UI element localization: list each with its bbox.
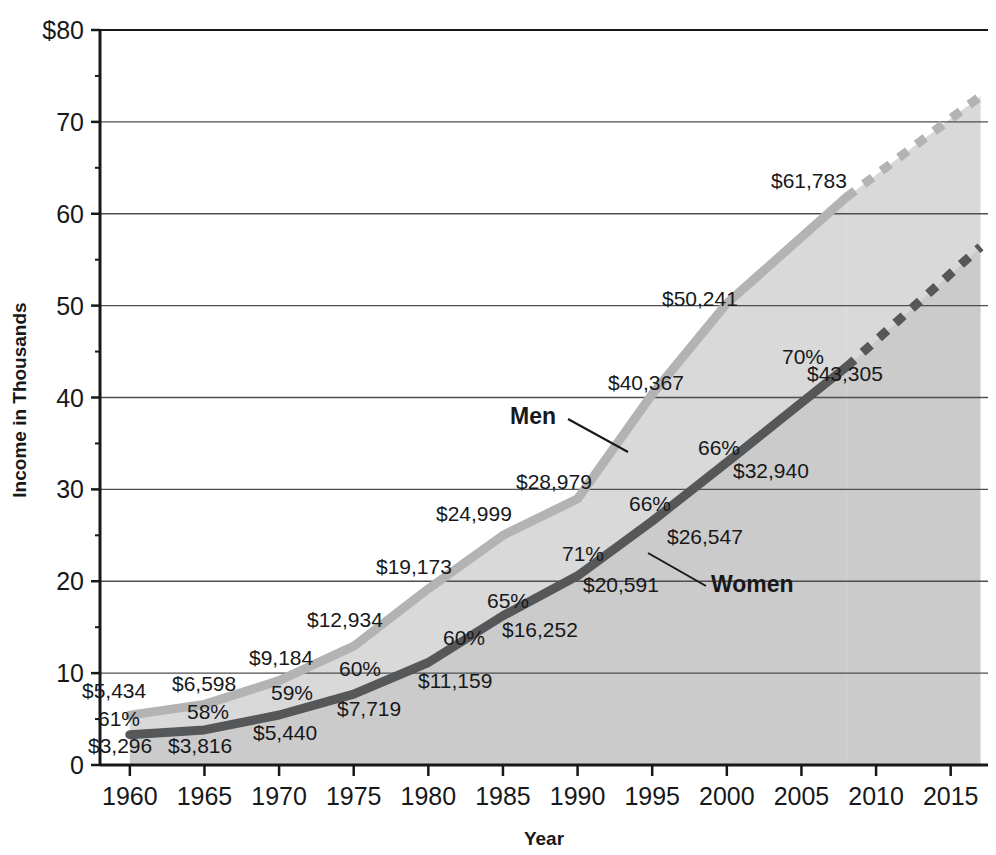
women-value-label: $26,547 bbox=[667, 525, 743, 548]
ratio-percent-label: 65% bbox=[487, 589, 529, 612]
x-tick-label: 1970 bbox=[251, 782, 307, 810]
x-tick-label: 1995 bbox=[624, 782, 680, 810]
men-value-label: $9,184 bbox=[249, 646, 314, 669]
y-tick-label: 10 bbox=[56, 659, 84, 687]
x-axis-tick-labels: 1960196519701975198019851990199520002005… bbox=[102, 782, 978, 810]
women-value-label: $7,719 bbox=[337, 697, 401, 720]
x-axis-title: Year bbox=[524, 828, 565, 849]
men-value-label: $50,241 bbox=[662, 287, 738, 310]
ratio-percent-label: 66% bbox=[698, 436, 740, 459]
ratio-percent-label: 61% bbox=[98, 707, 140, 730]
y-tick-label: 20 bbox=[56, 567, 84, 595]
income-gap-chart: $80706050403020100 196019651970197519801… bbox=[0, 0, 996, 855]
y-tick-label: 30 bbox=[56, 475, 84, 503]
y-tick-label: 60 bbox=[56, 200, 84, 228]
y-axis-tick-labels: $80706050403020100 bbox=[42, 16, 84, 779]
ratio-percent-label: 60% bbox=[443, 626, 485, 649]
women-series-label: Women bbox=[711, 571, 794, 597]
x-tick-label: 1985 bbox=[475, 782, 531, 810]
women-value-label: $16,252 bbox=[502, 618, 578, 641]
y-axis-title: Income in Thousands bbox=[9, 302, 30, 497]
women-value-label: $32,940 bbox=[733, 459, 809, 482]
x-tick-label: 2000 bbox=[699, 782, 755, 810]
chart-canvas: $80706050403020100 196019651970197519801… bbox=[0, 0, 996, 855]
y-tick-label: 70 bbox=[56, 108, 84, 136]
men-value-label: $19,173 bbox=[376, 555, 452, 578]
men-value-label: $6,598 bbox=[172, 672, 236, 695]
women-value-label: $3,816 bbox=[168, 734, 232, 757]
y-tick-label: 50 bbox=[56, 292, 84, 320]
men-value-label: $40,367 bbox=[608, 371, 684, 394]
ratio-percent-label: 60% bbox=[339, 657, 381, 680]
men-series-label: Men bbox=[510, 403, 556, 429]
x-tick-label: 1990 bbox=[550, 782, 606, 810]
men-value-label: $5,434 bbox=[82, 679, 147, 702]
women-value-label: $11,159 bbox=[418, 669, 492, 692]
x-tick-label: 1965 bbox=[177, 782, 233, 810]
men-value-label: $61,783 bbox=[771, 169, 847, 192]
women-value-label: $5,440 bbox=[253, 721, 317, 744]
ratio-percent-label: 58% bbox=[187, 700, 229, 723]
x-tick-label: 1975 bbox=[326, 782, 382, 810]
y-tick-label: 40 bbox=[56, 384, 84, 412]
men-value-label: $12,934 bbox=[307, 608, 383, 631]
ratio-percent-label: 71% bbox=[562, 542, 604, 565]
ratio-percent-label: 66% bbox=[629, 492, 671, 515]
y-tick-label: $80 bbox=[42, 16, 84, 44]
x-tick-label: 1960 bbox=[102, 782, 158, 810]
women-value-label: $20,591 bbox=[583, 573, 659, 596]
men-value-label: $28,979 bbox=[516, 470, 592, 493]
x-axis-ticks bbox=[130, 765, 951, 776]
y-tick-label: 0 bbox=[70, 751, 84, 779]
x-tick-label: 2010 bbox=[848, 782, 904, 810]
women-value-label: $3,296 bbox=[88, 734, 152, 757]
x-tick-label: 2005 bbox=[774, 782, 830, 810]
ratio-percent-label: 70% bbox=[782, 345, 824, 368]
men-value-label: $24,999 bbox=[436, 502, 512, 525]
x-tick-label: 2015 bbox=[923, 782, 979, 810]
ratio-percent-label: 59% bbox=[271, 681, 313, 704]
x-tick-label: 1980 bbox=[401, 782, 457, 810]
